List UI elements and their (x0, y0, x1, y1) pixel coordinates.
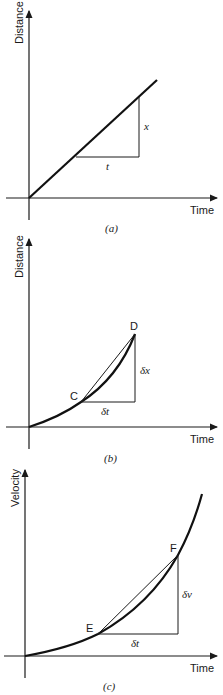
point-e-label: E (86, 622, 93, 634)
chord-ef (98, 555, 178, 634)
t-label: t (106, 160, 110, 172)
y-axis-label: Distance (13, 1, 25, 44)
point-c-label: C (70, 390, 78, 402)
x-axis-label: Time (190, 204, 214, 216)
figure: Distance Time x t (a) Distance Time C D … (0, 0, 223, 695)
caption-b: (b) (104, 452, 117, 465)
point-f-label: F (170, 542, 177, 554)
panel-b: Distance Time C D δx δt (b) (6, 235, 217, 465)
x-label: x (143, 120, 149, 132)
delta-t-label: δt (101, 405, 110, 417)
y-axis-label: Velocity (9, 469, 21, 507)
chord-cd (81, 334, 135, 402)
point-d-label: D (130, 320, 138, 332)
y-axis-label: Distance (13, 235, 25, 278)
caption-c: (c) (103, 680, 116, 693)
distance-curve (29, 334, 135, 427)
delta-x-label: δx (140, 364, 150, 376)
delta-t-label: δt (131, 637, 140, 649)
velocity-curve (25, 494, 202, 656)
caption-a: (a) (105, 222, 118, 235)
panel-c: Velocity Time E F δv δt (c) (4, 469, 217, 693)
x-axis-label: Time (190, 662, 214, 674)
x-axis-label: Time (190, 433, 214, 445)
panel-a: Distance Time x t (a) (6, 1, 217, 235)
distance-line (29, 80, 157, 198)
delta-v-label: δv (182, 588, 192, 600)
